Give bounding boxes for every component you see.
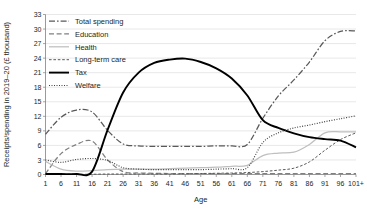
x-tick-label: 16 — [88, 180, 96, 187]
x-tick-label: 46 — [181, 180, 189, 187]
x-axis-title: Age — [194, 195, 207, 204]
y-tick-label: 6 — [38, 142, 42, 149]
y-tick-label: 9 — [38, 127, 42, 134]
series-line-tax — [46, 59, 357, 176]
legend-label-health: Health — [75, 43, 97, 52]
x-tick-label: 101+ — [348, 180, 364, 187]
x-tick-label: 11 — [73, 180, 80, 187]
x-tick-label: 51 — [197, 180, 205, 187]
legend-label-long-term-care: Long-term care — [75, 55, 126, 64]
x-tick-label: 66 — [243, 180, 251, 187]
legend-label-tax: Tax — [75, 68, 87, 77]
y-tick-label: 21 — [34, 69, 42, 76]
chart-container: 0369121518212427303316111621263136414651… — [0, 0, 367, 215]
x-tick-label: 91 — [321, 180, 329, 187]
legend-label-welfare: Welfare — [75, 81, 101, 90]
y-tick-label: 18 — [34, 84, 42, 91]
x-tick-label: 86 — [306, 180, 314, 187]
y-tick-label: 27 — [34, 40, 42, 47]
y-tick-label: 0 — [38, 171, 42, 178]
y-tick-label: 12 — [34, 113, 42, 120]
x-tick-label: 1 — [44, 180, 48, 187]
x-tick-label: 81 — [290, 180, 298, 187]
y-tick-label: 24 — [34, 55, 42, 62]
x-tick-label: 61 — [228, 180, 236, 187]
x-tick-label: 31 — [135, 180, 143, 187]
x-tick-label: 76 — [274, 180, 282, 187]
x-tick-label: 21 — [104, 180, 112, 187]
x-tick-label: 6 — [59, 180, 63, 187]
x-tick-label: 26 — [119, 180, 127, 187]
y-tick-label: 3 — [38, 157, 42, 164]
x-tick-label: 71 — [259, 180, 267, 187]
y-tick-label: 30 — [34, 26, 42, 33]
x-tick-label: 36 — [150, 180, 158, 187]
x-tick-label: 41 — [166, 180, 174, 187]
legend-label-total-spending: Total spending — [75, 17, 123, 26]
x-tick-label: 96 — [337, 180, 345, 187]
x-tick-label: 56 — [212, 180, 220, 187]
y-tick-label: 33 — [34, 11, 42, 18]
legend-label-education: Education — [75, 30, 108, 39]
y-axis-title: Receipts/spending in 2019–20 (£ thousand… — [2, 21, 11, 167]
y-tick-label: 15 — [34, 98, 42, 105]
line-chart: 0369121518212427303316111621263136414651… — [0, 0, 367, 215]
